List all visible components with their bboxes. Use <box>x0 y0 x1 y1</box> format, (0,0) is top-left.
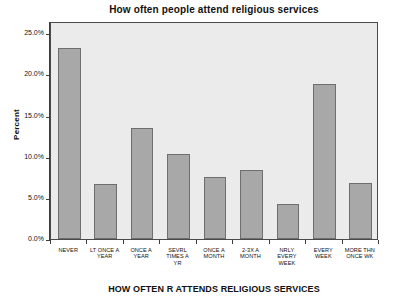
x-label-line: MORE THN <box>345 247 375 253</box>
bar <box>313 84 336 239</box>
x-tick-mark <box>196 240 197 244</box>
x-axis-category-label: SEVRLTIMES AYR <box>159 247 195 266</box>
y-tick-label: 15.0% <box>24 112 44 119</box>
x-label-line: ONCE WK <box>346 253 373 259</box>
x-label-line: ONCE A <box>203 247 224 253</box>
x-label-line: YEAR <box>133 253 148 259</box>
y-tick-mark <box>46 117 50 118</box>
x-tick-mark <box>269 240 270 244</box>
x-label-line: WEEK <box>315 253 332 259</box>
bar <box>131 128 154 239</box>
bar <box>277 204 300 239</box>
y-tick-mark <box>46 34 50 35</box>
y-axis-title: Percent <box>12 95 21 155</box>
bar <box>94 184 117 239</box>
y-axis-tick: 15.0% <box>0 117 50 118</box>
y-axis-tick: 20.0% <box>0 75 50 76</box>
x-axis-category-label: NEVER <box>50 247 86 253</box>
bar <box>58 48 81 239</box>
x-label-line: MONTH <box>240 253 261 259</box>
x-label-line: ONCE A <box>130 247 151 253</box>
x-axis-category-label: ONCE AMONTH <box>196 247 232 260</box>
x-label-line: SEVRL <box>168 247 187 253</box>
x-label-line: TIMES A <box>166 253 188 259</box>
x-tick-mark <box>123 240 124 244</box>
x-label-line: NRLY <box>280 247 295 253</box>
x-tick-mark <box>159 240 160 244</box>
y-tick-label: 5.0% <box>28 194 44 201</box>
bar <box>204 177 227 239</box>
x-tick-mark <box>50 240 51 244</box>
x-label-line: EVERY <box>314 247 333 253</box>
y-tick-mark <box>46 158 50 159</box>
x-tick-mark <box>378 240 379 244</box>
y-tick-label: 20.0% <box>24 70 44 77</box>
plot-area <box>50 22 378 240</box>
x-label-line: YR <box>174 260 182 266</box>
x-tick-mark <box>342 240 343 244</box>
y-tick-label: 0.0% <box>28 235 44 242</box>
x-label-line: MONTH <box>204 253 225 259</box>
chart-title: How often people attend religious servic… <box>50 4 378 15</box>
y-tick-mark <box>46 75 50 76</box>
x-axis-category-label: MORE THNONCE WK <box>342 247 378 260</box>
x-tick-mark <box>305 240 306 244</box>
x-axis-category-label: LT ONCE AYEAR <box>86 247 122 260</box>
x-axis-title: HOW OFTEN R ATTENDS RELIGIOUS SERVICES <box>50 284 378 294</box>
bars-layer <box>51 23 377 239</box>
x-axis-category-label: NRLYEVERYWEEK <box>269 247 305 266</box>
y-tick-mark <box>46 199 50 200</box>
y-axis-tick: 0.0% <box>0 240 50 241</box>
y-axis-tick: 10.0% <box>0 158 50 159</box>
x-label-line: NEVER <box>58 247 78 253</box>
bar <box>240 170 263 239</box>
x-label-line: LT ONCE A <box>90 247 119 253</box>
x-label-line: 2-3X A <box>242 247 259 253</box>
x-label-line: YEAR <box>97 253 112 259</box>
x-label-line: EVERY <box>277 253 296 259</box>
x-axis-category-label: ONCE AYEAR <box>123 247 159 260</box>
x-axis-category-label: 2-3X AMONTH <box>232 247 268 260</box>
bar <box>349 183 372 239</box>
x-label-line: WEEK <box>279 260 296 266</box>
y-tick-label: 10.0% <box>24 153 44 160</box>
bar-chart: How often people attend religious servic… <box>0 0 395 306</box>
y-axis-tick: 5.0% <box>0 199 50 200</box>
bar <box>167 154 190 239</box>
y-tick-label: 25.0% <box>24 29 44 36</box>
x-tick-mark <box>86 240 87 244</box>
x-tick-mark <box>232 240 233 244</box>
y-axis-tick: 25.0% <box>0 34 50 35</box>
x-axis-category-label: EVERYWEEK <box>305 247 341 260</box>
